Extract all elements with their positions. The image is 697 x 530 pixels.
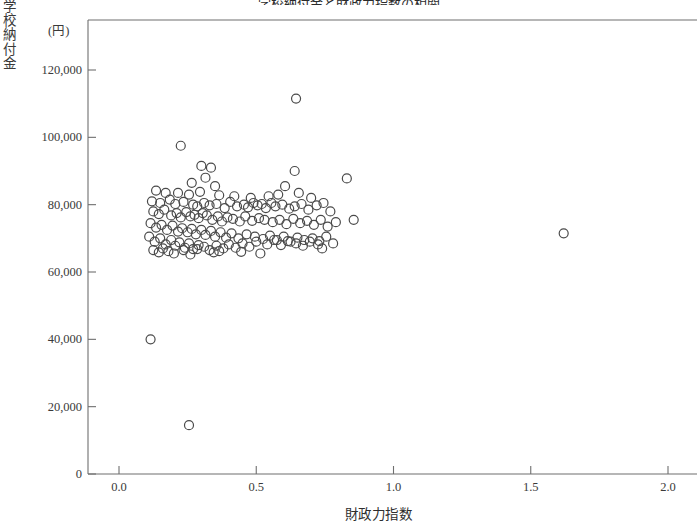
scatter-point (187, 178, 196, 187)
scatter-point (195, 187, 204, 196)
scatter-point (176, 141, 185, 150)
scatter-point (294, 188, 303, 197)
scatter-point (242, 230, 251, 239)
scatter-point (260, 215, 269, 224)
scatter-point (201, 173, 210, 182)
scatter-point (149, 207, 158, 216)
scatter-point (206, 163, 215, 172)
scatter-point (174, 188, 183, 197)
scatter-point (197, 161, 206, 170)
scatter-plot-figure: 学校納付金と財政力指数の相関 (円) 学 校 納 付 金 財政力指数 020,0… (0, 0, 697, 530)
scatter-point (179, 197, 188, 206)
scatter-point (349, 215, 358, 224)
scatter-point (290, 167, 299, 176)
scatter-point (292, 94, 301, 103)
scatter-point (161, 188, 170, 197)
scatter-point (152, 186, 161, 195)
scatter-point (322, 232, 331, 241)
scatter-point (220, 204, 229, 213)
scatter-point (147, 197, 156, 206)
scatter-point (304, 205, 313, 214)
scatter-point (149, 246, 158, 255)
scatter-point (167, 211, 176, 220)
scatter-point (145, 232, 154, 241)
scatter-point (281, 182, 290, 191)
scatter-point (256, 249, 265, 258)
y-axis-ticks (88, 70, 96, 474)
scatter-point (157, 220, 166, 229)
scatter-point (185, 421, 194, 430)
scatter-point (215, 191, 224, 200)
scatter-point (211, 182, 220, 191)
scatter-point (316, 215, 325, 224)
scatter-point (323, 222, 332, 231)
scatter-point (559, 229, 568, 238)
plot-canvas (0, 0, 697, 530)
scatter-point (342, 174, 351, 183)
scatter-point (274, 190, 283, 199)
scatter-point (285, 204, 294, 213)
scatter-point (326, 207, 335, 216)
scatter-data-points (145, 94, 569, 430)
x-axis-ticks (119, 466, 668, 474)
scatter-point (329, 239, 338, 248)
scatter-point (156, 198, 165, 207)
scatter-point (331, 218, 340, 227)
scatter-point (146, 335, 155, 344)
